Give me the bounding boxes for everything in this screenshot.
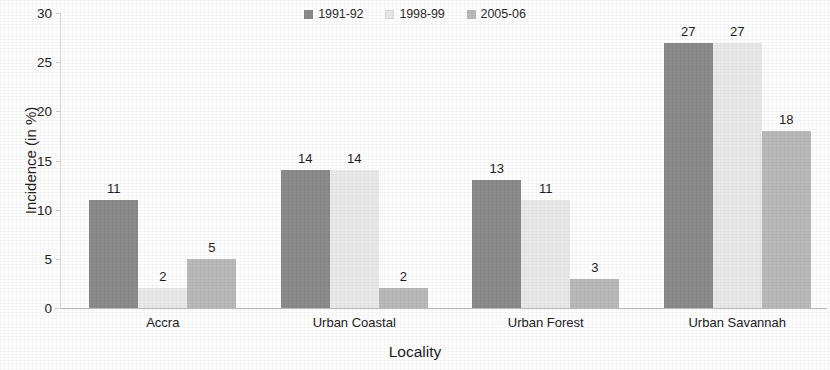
bar-group: 13113	[472, 13, 619, 308]
y-axis-tick-mark	[56, 62, 61, 63]
bar-group: 272718	[664, 13, 811, 308]
bar-value-label: 5	[208, 240, 215, 255]
bar-value-label: 27	[730, 24, 744, 39]
bar: 2	[379, 288, 428, 308]
bar-value-label: 11	[539, 181, 553, 196]
x-axis-category-label: Accra	[146, 315, 179, 330]
bar-value-label: 18	[779, 112, 793, 127]
plot-area: 051015202530 11251414213113272718 AccraU…	[61, 13, 827, 308]
bar: 11	[89, 200, 138, 308]
x-axis-category-label: Urban Coastal	[313, 315, 396, 330]
y-axis-tick-label: 25	[9, 55, 61, 70]
y-axis-tick-label: 5	[9, 251, 61, 266]
bar-value-label: 13	[490, 161, 504, 176]
y-axis-tick-label: 30	[9, 6, 61, 21]
bar: 14	[330, 170, 379, 308]
x-axis-line	[55, 308, 827, 309]
bar-value-label: 2	[400, 269, 407, 284]
bar: 11	[521, 200, 570, 308]
bar-value-label: 11	[107, 181, 121, 196]
bar-value-label: 14	[298, 151, 312, 166]
bar: 13	[472, 180, 521, 308]
bar-value-label: 27	[681, 24, 695, 39]
bar-value-label: 3	[591, 260, 598, 275]
y-axis-tick-label: 0	[9, 301, 61, 316]
bar: 3	[570, 279, 619, 309]
bar-value-label: 2	[159, 269, 166, 284]
y-axis-tick-mark	[56, 161, 61, 162]
y-axis-tick-mark	[56, 259, 61, 260]
y-axis-tick-mark	[56, 13, 61, 14]
bar: 18	[762, 131, 811, 308]
bar-chart: 1991-921998-992005-06 Incidence (in %) 0…	[0, 0, 830, 370]
y-axis-tick-mark	[56, 111, 61, 112]
bar-group: 14142	[281, 13, 428, 308]
y-axis-tick-label: 20	[9, 104, 61, 119]
y-axis-tick-mark	[56, 210, 61, 211]
bar: 27	[713, 43, 762, 309]
bar-group: 1125	[89, 13, 236, 308]
y-axis-tick-label: 10	[9, 202, 61, 217]
bar: 14	[281, 170, 330, 308]
x-axis-category-label: Urban Savannah	[688, 315, 786, 330]
bar-value-label: 14	[347, 151, 361, 166]
y-axis-tick-label: 15	[9, 153, 61, 168]
bar: 27	[664, 43, 713, 309]
y-axis-tick-mark	[56, 308, 61, 309]
x-axis-title: Locality	[0, 343, 830, 361]
bar: 5	[187, 259, 236, 308]
x-axis-category-label: Urban Forest	[508, 315, 584, 330]
bar: 2	[138, 288, 187, 308]
